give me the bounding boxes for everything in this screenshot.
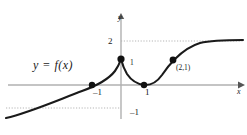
- marked-point-0-1: [117, 55, 124, 62]
- y-axis-label: y: [118, 14, 122, 22]
- y-tick-label-2: 2: [108, 37, 113, 46]
- point-label-2-1: (2,1): [176, 64, 190, 72]
- x-axis-label: x: [237, 88, 241, 96]
- y-tick-label-negative-1: –1: [130, 108, 139, 117]
- curve-equation-label: y = f(x): [33, 59, 73, 71]
- y-tick-label-1: 1: [130, 59, 134, 67]
- x-tick-label-1: 1: [145, 88, 150, 97]
- x-tick-label-negative-1: –1: [93, 88, 102, 97]
- function-curve: [6, 40, 243, 118]
- function-graph-figure: y x 2 1 –1 1 –1 (2,1) y = f(x): [0, 0, 247, 135]
